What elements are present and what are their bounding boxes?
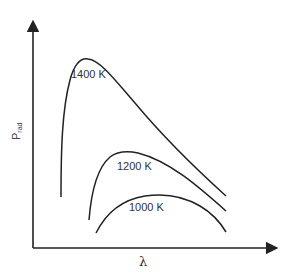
label-1200k: 1200 K xyxy=(117,160,153,172)
svg-text:Prad: Prad xyxy=(10,122,23,140)
label-1000k: 1000 K xyxy=(129,201,165,213)
x-axis-label: λ xyxy=(139,254,147,269)
label-1400k: 1400 K xyxy=(71,68,107,80)
y-axis-label: Prad xyxy=(10,122,23,140)
blackbody-radiation-diagram: 1400 K 1200 K 1000 K λ Prad xyxy=(0,0,291,278)
